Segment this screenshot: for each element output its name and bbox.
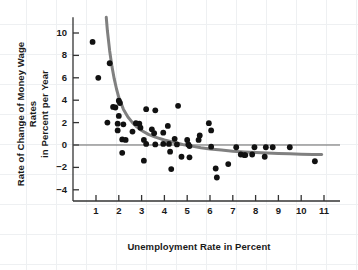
- y-axis-title-wrapper: Rate of Change of Money Wage Rates in Pe…: [15, 29, 43, 199]
- data-point: [130, 129, 136, 135]
- data-point: [119, 150, 125, 156]
- x-axis-title: Unemployment Rate in Percent: [73, 241, 325, 253]
- fitted-curve: [106, 17, 321, 154]
- phillips-curve-figure: 1086420−2−4 1234567891011 Rate of Change…: [0, 0, 358, 270]
- data-point: [206, 120, 212, 126]
- x-tick-label: 6: [200, 205, 220, 216]
- data-point: [95, 75, 101, 81]
- data-point: [160, 141, 166, 147]
- data-point: [249, 152, 255, 158]
- data-point: [262, 154, 268, 160]
- data-point: [208, 128, 214, 134]
- data-point: [187, 154, 193, 160]
- data-point: [138, 125, 144, 131]
- data-point: [270, 144, 276, 150]
- data-point: [151, 130, 157, 136]
- y-axis-title-line2: in Percent per Year: [39, 70, 50, 158]
- data-point: [90, 39, 96, 45]
- data-point: [175, 103, 181, 109]
- data-point: [263, 144, 269, 150]
- data-point: [213, 166, 219, 172]
- data-point: [152, 142, 158, 148]
- data-point: [252, 144, 258, 150]
- data-point: [152, 107, 158, 113]
- data-point: [116, 113, 122, 119]
- data-point: [123, 137, 129, 143]
- x-tick-label: 7: [223, 205, 243, 216]
- data-point: [112, 105, 118, 111]
- data-point: [143, 141, 149, 147]
- x-tick-label: 3: [132, 205, 152, 216]
- x-tick-label: 1: [86, 205, 106, 216]
- data-point: [196, 137, 202, 143]
- data-point: [120, 121, 126, 127]
- data-point: [172, 136, 178, 142]
- scatter-plot-canvas: [0, 0, 358, 270]
- x-tick-label: 5: [177, 205, 197, 216]
- data-point: [143, 106, 149, 112]
- x-tick-label: 11: [314, 205, 334, 216]
- data-point: [187, 143, 193, 149]
- data-point: [160, 130, 166, 136]
- x-tick-label: 10: [291, 205, 311, 216]
- data-point: [167, 149, 173, 155]
- data-point: [168, 166, 174, 172]
- data-point: [117, 100, 123, 106]
- data-point: [107, 60, 113, 66]
- data-point: [208, 144, 214, 150]
- x-tick-label: 8: [246, 205, 266, 216]
- data-point: [115, 128, 121, 134]
- x-tick-label: 9: [268, 205, 288, 216]
- data-point: [115, 121, 121, 127]
- data-point: [287, 144, 293, 150]
- data-point: [242, 152, 248, 158]
- x-tick-label: 4: [154, 205, 174, 216]
- data-point: [225, 161, 231, 167]
- data-point: [214, 175, 220, 181]
- data-point: [179, 154, 185, 160]
- data-point: [141, 158, 147, 164]
- data-point: [233, 144, 239, 150]
- data-point: [174, 142, 180, 148]
- data-point: [165, 123, 171, 129]
- x-tick-label: 2: [109, 205, 129, 216]
- data-point: [312, 158, 318, 164]
- data-point: [105, 120, 111, 126]
- y-axis-title: Rate of Change of Money Wage Rates in Pe…: [15, 29, 51, 199]
- data-point: [166, 141, 172, 147]
- y-axis-title-line1: Rate of Change of Money Wage Rates: [15, 42, 38, 186]
